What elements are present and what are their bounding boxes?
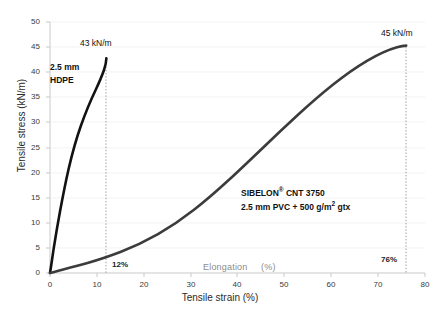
y-axis-title: Tensile stress (kN/m) — [16, 71, 27, 181]
annotation-hdpe-label-line2: HDPE — [50, 75, 74, 85]
annotation-strain-76-percent: 76% — [381, 255, 397, 264]
x-tick-label-60: 60 — [320, 280, 342, 289]
x-tick-label-70: 70 — [367, 280, 389, 289]
x-tick-label-0: 0 — [39, 280, 61, 289]
annotation-strain-12-percent: 12% — [112, 260, 128, 269]
tensile-stress-strain-chart: 50 45 40 35 30 25 20 15 10 5 0 0 10 20 3… — [0, 0, 438, 319]
y-tick-label-50: 50 — [20, 17, 40, 26]
curve-hdpe — [50, 58, 106, 273]
annotation-sibelon-label-line2: 2.5 mm PVC + 500 g/m2 gtx — [241, 200, 350, 212]
x-tick-label-40: 40 — [226, 280, 248, 289]
annotation-elongation-unit: (%) — [261, 262, 276, 272]
x-tick-label-80: 80 — [414, 280, 436, 289]
annotation-elongation-label: Elongation — [203, 262, 248, 272]
x-tick-marks — [50, 273, 425, 277]
sibelon-spec-text: 2.5 mm PVC + 500 g/m — [241, 202, 331, 212]
sibelon-gtx-text: gtx — [335, 202, 350, 212]
x-tick-label-10: 10 — [86, 280, 108, 289]
y-tick-label-5: 5 — [20, 243, 40, 252]
y-tick-label-15: 15 — [20, 193, 40, 202]
x-tick-label-20: 20 — [133, 280, 155, 289]
y-tick-marks — [46, 22, 50, 273]
annotation-sibelon-peak-value: 45 kN/m — [381, 28, 413, 38]
y-tick-label-45: 45 — [20, 42, 40, 51]
x-axis-title: Tensile strain (%) — [150, 292, 290, 303]
annotation-hdpe-peak-value: 43 kN/m — [80, 38, 112, 48]
x-tick-label-50: 50 — [273, 280, 295, 289]
curve-sibelon — [50, 46, 406, 273]
sibelon-model-text: CNT 3750 — [286, 188, 325, 198]
y-tick-label-10: 10 — [20, 218, 40, 227]
annotation-hdpe-label-line1: 2.5 mm — [50, 62, 79, 72]
x-tick-label-30: 30 — [180, 280, 202, 289]
registered-trademark-icon: ® — [279, 186, 284, 193]
annotation-sibelon-label-line1: SIBELON® CNT 3750 — [241, 186, 325, 198]
sibelon-brand-text: SIBELON — [241, 188, 279, 198]
y-tick-label-0: 0 — [20, 268, 40, 277]
